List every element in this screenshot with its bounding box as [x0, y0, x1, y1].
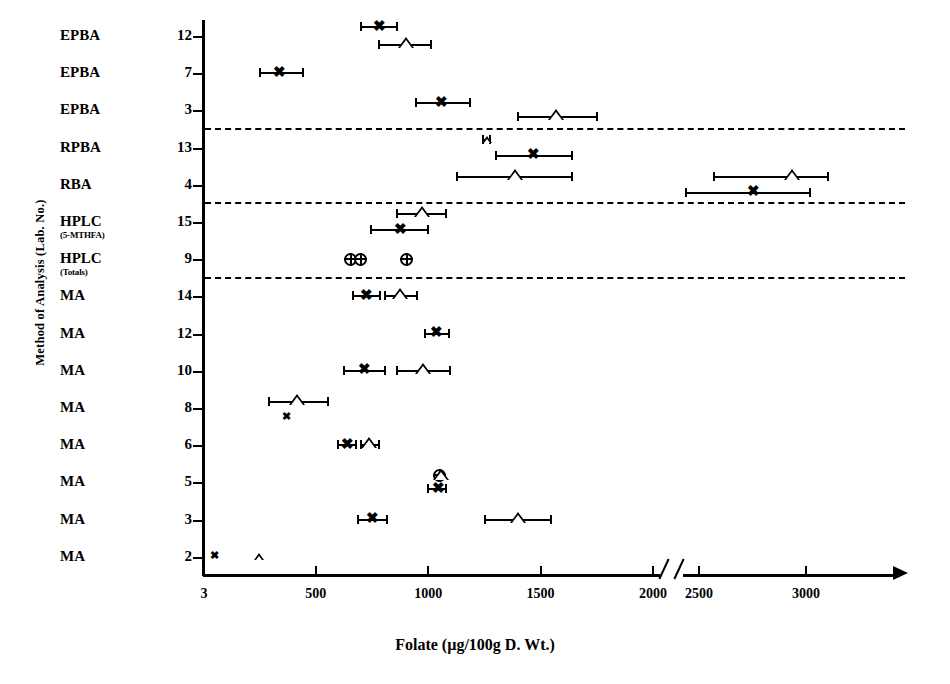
category-method-name: MA: [60, 362, 85, 379]
category-label-row: EPBA7: [60, 64, 200, 80]
error-bar-cap-upper: [355, 440, 357, 449]
category-lab-number: 15: [177, 213, 192, 230]
error-bar-cap-lower: [268, 397, 270, 406]
data-point-triangle-inner: [550, 112, 562, 120]
axis-break-slash-1: [658, 559, 669, 580]
data-point-x-marker: ✖: [372, 19, 387, 34]
category-label-row: RPBA13: [60, 139, 200, 155]
category-lab-number: 14: [177, 287, 192, 304]
x-axis-tick: [698, 566, 700, 575]
category-lab-number: 12: [177, 27, 192, 44]
folate-comparison-chart: Method of Analysis (Lab. No.) EPBA12EPBA…: [0, 0, 950, 684]
x-axis-title: Folate (µg/100g D. Wt.): [0, 636, 950, 654]
error-bar-cap-upper: [571, 172, 573, 181]
data-point-triangle-inner: [256, 556, 262, 560]
data-point-triangle-inner: [512, 515, 524, 523]
category-lab-number: 9: [185, 250, 193, 267]
circle-marker-crosshair-vertical: [350, 253, 352, 266]
data-point-triangle-inner: [291, 397, 303, 405]
error-bar-cap-upper: [427, 225, 429, 234]
error-bar-cap-lower: [343, 366, 345, 375]
category-method-name: HPLC: [60, 250, 102, 267]
error-bar-cap-upper: [430, 40, 432, 49]
error-bar-cap-lower: [396, 209, 398, 218]
circle-marker-crosshair-vertical: [406, 253, 408, 266]
data-point-x-marker: ✖: [340, 437, 355, 452]
category-label-row: MA12: [60, 325, 200, 341]
y-axis-line: [202, 20, 205, 576]
group-separator-line: [205, 202, 905, 204]
y-axis-tick: [193, 408, 202, 410]
data-point-x-marker: ✖: [281, 411, 292, 422]
x-axis-tick-label: 3000: [776, 586, 836, 602]
error-bar-cap-upper: [596, 112, 598, 121]
error-bar-line: [713, 176, 829, 178]
error-bar-cap-upper: [396, 22, 398, 31]
error-bar-cap-upper: [571, 151, 573, 160]
category-label-row: HPLC9: [60, 250, 200, 266]
error-bar-cap-lower: [370, 225, 372, 234]
category-label-row: EPBA12: [60, 27, 200, 43]
category-lab-number: 12: [177, 325, 192, 342]
category-lab-number: 5: [185, 473, 193, 490]
error-bar-cap-lower: [427, 484, 429, 493]
category-lab-number: 8: [185, 399, 193, 416]
category-lab-number: 13: [177, 139, 192, 156]
error-bar-cap-upper: [379, 291, 381, 300]
category-lab-number: 4: [185, 176, 193, 193]
category-method-name: EPBA: [60, 101, 100, 118]
x-axis-tick: [805, 566, 807, 575]
error-bar-cap-upper: [449, 366, 451, 375]
error-bar-cap-lower: [396, 366, 398, 375]
y-axis-title: Method of Analysis (Lab. No.): [33, 123, 48, 443]
error-bar-cap-upper: [384, 366, 386, 375]
error-bar-cap-upper: [550, 515, 552, 524]
x-axis-tick-label: 1000: [398, 586, 458, 602]
category-label-row: MA2: [60, 548, 200, 564]
data-point-x-marker: ✖: [526, 147, 541, 162]
category-method-name: MA: [60, 511, 85, 528]
category-label-row: EPBA3: [60, 101, 200, 117]
category-method-name: EPBA: [60, 27, 100, 44]
category-label-row: MA6: [60, 436, 200, 452]
x-axis-tick-label: 1500: [511, 586, 571, 602]
data-point-triangle-inner: [394, 291, 406, 299]
error-bar-cap-lower: [384, 291, 386, 300]
x-axis-segment-1: [203, 574, 660, 577]
data-point-x-marker: ✖: [746, 184, 761, 199]
x-axis-tick-label: 3: [174, 586, 234, 602]
y-axis-tick: [193, 110, 202, 112]
error-bar-cap-lower: [360, 22, 362, 31]
y-axis-tick: [193, 520, 202, 522]
category-label-row: MA3: [60, 511, 200, 527]
y-axis-tick: [193, 445, 202, 447]
x-axis-segment-2: [683, 574, 895, 577]
y-axis-tick: [193, 334, 202, 336]
category-sublabel: (Totals): [60, 267, 88, 277]
category-label-row: RBA4: [60, 176, 200, 192]
category-method-name: MA: [60, 325, 85, 342]
category-lab-number: 7: [185, 64, 193, 81]
category-lab-number: 6: [185, 436, 193, 453]
x-axis-tick: [315, 566, 317, 575]
category-method-name: MA: [60, 287, 85, 304]
y-axis-tick: [193, 482, 202, 484]
category-method-name: EPBA: [60, 64, 100, 81]
data-point-x-marker: ✖: [429, 325, 444, 340]
y-axis-tick: [193, 222, 202, 224]
category-label-row: MA8: [60, 399, 200, 415]
category-method-name: HPLC: [60, 213, 102, 230]
category-label-row: MA5: [60, 473, 200, 489]
y-axis-tick: [193, 557, 202, 559]
data-point-x-marker: ✖: [434, 95, 449, 110]
x-axis-tick-label: 500: [286, 586, 346, 602]
error-bar-cap-lower: [259, 68, 261, 77]
category-method-name: MA: [60, 473, 85, 490]
data-point-triangle-inner: [416, 209, 428, 217]
error-bar-cap-lower: [357, 515, 359, 524]
data-point-triangle-inner: [363, 440, 375, 448]
data-point-x-marker: ✖: [393, 222, 408, 237]
error-bar-cap-upper: [448, 329, 450, 338]
y-axis-tick: [193, 148, 202, 150]
category-lab-number: 2: [185, 548, 193, 565]
